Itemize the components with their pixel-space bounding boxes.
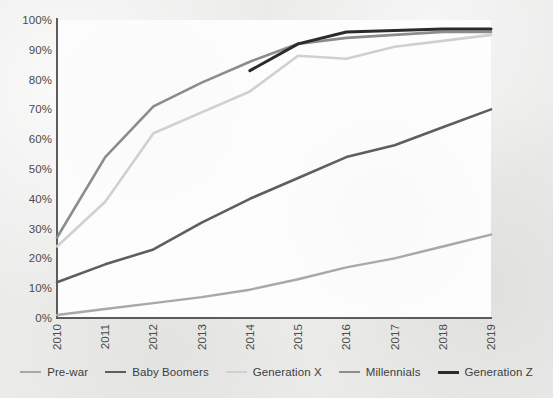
- legend-item-label: Generation Z: [465, 366, 533, 378]
- y-tick-label: 10%: [2, 282, 52, 294]
- legend-swatch-line-icon: [226, 371, 247, 374]
- line-chart: 0%10%20%30%40%50%60%70%80%90%100% 201020…: [0, 0, 553, 398]
- legend-item[interactable]: Millennials: [339, 366, 421, 378]
- y-tick-label: 80%: [2, 74, 52, 86]
- legend-item-label: Pre-war: [47, 366, 88, 378]
- y-tick-label: 90%: [2, 44, 52, 56]
- x-axis-line: [56, 317, 492, 319]
- y-tick-label: 100%: [2, 14, 52, 26]
- chart-legend: Pre-warBaby BoomersGeneration XMillennia…: [0, 362, 553, 382]
- legend-item[interactable]: Generation Z: [438, 366, 533, 378]
- y-tick-label: 20%: [2, 252, 52, 264]
- y-axis-tick-labels: 0%10%20%30%40%50%60%70%80%90%100%: [0, 0, 52, 398]
- y-tick-label: 0%: [2, 312, 52, 324]
- legend-swatch-line-icon: [105, 371, 126, 374]
- legend-item-label: Generation X: [253, 366, 322, 378]
- y-tick-label: 50%: [2, 163, 52, 175]
- legend-item-label: Baby Boomers: [132, 366, 209, 378]
- legend-item[interactable]: Pre-war: [20, 366, 88, 378]
- plot-area: [57, 20, 491, 318]
- y-tick-label: 40%: [2, 193, 52, 205]
- legend-swatch-line-icon: [20, 371, 41, 374]
- y-tick-label: 60%: [2, 133, 52, 145]
- legend-item[interactable]: Generation X: [226, 366, 322, 378]
- legend-swatch-line-icon: [438, 371, 459, 374]
- legend-item-label: Millennials: [366, 366, 421, 378]
- legend-item[interactable]: Baby Boomers: [105, 366, 209, 378]
- y-tick-label: 30%: [2, 223, 52, 235]
- y-tick-label: 70%: [2, 103, 52, 115]
- y-axis-line: [56, 18, 58, 319]
- legend-swatch-line-icon: [339, 371, 360, 374]
